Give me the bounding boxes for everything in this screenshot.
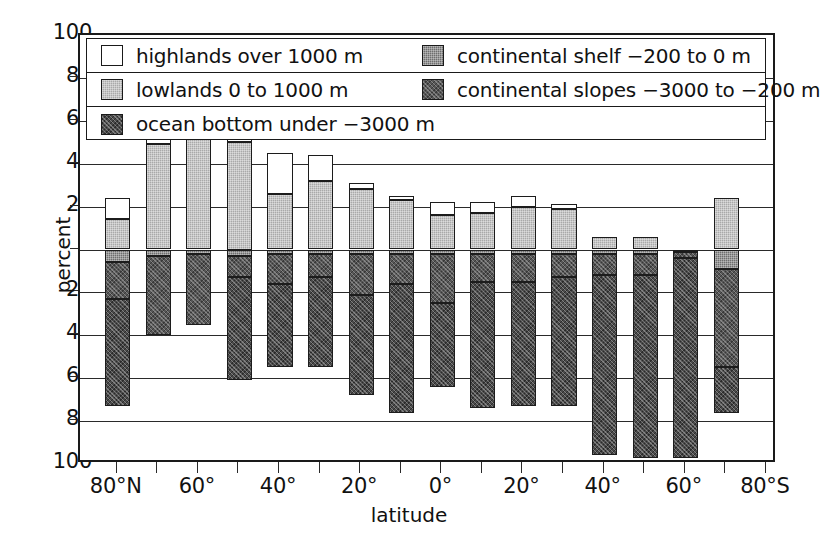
x-tick-mark bbox=[278, 462, 279, 473]
bar-segment-ocean bbox=[551, 277, 576, 406]
legend-row: highlands over 1000 mcontinental shelf −… bbox=[87, 39, 765, 73]
x-tick-label: 20° bbox=[481, 474, 561, 498]
x-tick-label: 0° bbox=[400, 474, 480, 498]
bar-segment-slopes bbox=[430, 254, 455, 303]
x-tick-mark bbox=[440, 462, 441, 473]
legend-entry-ocean: ocean bottom under −3000 m bbox=[101, 107, 435, 141]
x-tick-mark bbox=[643, 462, 644, 473]
bar-segment-slopes bbox=[592, 254, 617, 275]
legend-entry-highlands: highlands over 1000 m bbox=[101, 39, 363, 72]
gridline bbox=[80, 421, 773, 422]
legend-entry-slopes: continental slopes −3000 to −200 m bbox=[422, 73, 820, 106]
bar-segment-slopes bbox=[551, 254, 576, 278]
x-tick-mark bbox=[237, 462, 238, 473]
legend-swatch-lowlands bbox=[101, 79, 123, 100]
y-tick-mark bbox=[70, 76, 78, 77]
legend-swatch-highlands bbox=[101, 45, 123, 66]
bar-segment-slopes bbox=[349, 254, 374, 295]
gridline bbox=[80, 250, 773, 251]
bar-segment-ocean bbox=[714, 367, 739, 412]
bar-segment-slopes bbox=[146, 256, 171, 335]
legend-entry-shelf: continental shelf −200 to 0 m bbox=[422, 39, 751, 72]
bar-segment-ocean bbox=[511, 282, 536, 406]
legend-label: continental shelf −200 to 0 m bbox=[457, 46, 751, 66]
x-tick-label: 60° bbox=[157, 474, 237, 498]
gridline bbox=[80, 164, 773, 165]
x-axis-title: latitude bbox=[0, 503, 818, 527]
bar-segment-highlands bbox=[105, 198, 130, 219]
y-tick-mark bbox=[70, 376, 78, 377]
bar-segment-lowlands bbox=[389, 200, 414, 249]
legend: highlands over 1000 mcontinental shelf −… bbox=[86, 38, 766, 140]
bar-segment-lowlands bbox=[592, 237, 617, 250]
gridline bbox=[80, 207, 773, 208]
bar-segment-lowlands bbox=[186, 123, 211, 250]
bar-segment-slopes bbox=[470, 254, 495, 282]
bar-segment-lowlands bbox=[430, 215, 455, 249]
bar-segment-slopes bbox=[227, 256, 252, 277]
bar-segment-lowlands bbox=[349, 189, 374, 249]
bar-segment-slopes bbox=[186, 254, 211, 325]
y-tick-mark bbox=[70, 419, 78, 420]
bar-segment-ocean bbox=[592, 275, 617, 455]
legend-label: ocean bottom under −3000 m bbox=[136, 114, 435, 134]
x-tick-mark bbox=[521, 462, 522, 473]
x-tick-label: 80°S bbox=[725, 474, 805, 498]
bar-segment-highlands bbox=[389, 196, 414, 200]
legend-label: lowlands 0 to 1000 m bbox=[136, 80, 348, 100]
gridline bbox=[80, 335, 773, 336]
bar-segment-shelf bbox=[714, 250, 739, 269]
x-tick-mark bbox=[603, 462, 604, 473]
bar-segment-lowlands bbox=[551, 209, 576, 250]
legend-swatch-slopes bbox=[422, 79, 444, 100]
bar-segment-lowlands bbox=[633, 237, 658, 250]
bar-segment-ocean bbox=[349, 295, 374, 396]
bar-segment-highlands bbox=[511, 196, 536, 207]
bar-segment-slopes bbox=[389, 254, 414, 284]
bar-segment-lowlands bbox=[227, 142, 252, 249]
y-tick-mark bbox=[70, 333, 78, 334]
x-tick-label: 40° bbox=[563, 474, 643, 498]
bar-segment-ocean bbox=[267, 284, 292, 368]
bar-segment-lowlands bbox=[470, 213, 495, 249]
bar-segment-ocean bbox=[470, 282, 495, 409]
bar-segment-ocean bbox=[633, 275, 658, 457]
bar-segment-lowlands bbox=[267, 194, 292, 250]
x-tick-label: 40° bbox=[238, 474, 318, 498]
legend-label: continental slopes −3000 to −200 m bbox=[457, 80, 820, 100]
bar-segment-slopes bbox=[267, 254, 292, 284]
bar-segment-slopes bbox=[511, 254, 536, 282]
bar-segment-shelf bbox=[105, 250, 130, 263]
legend-entry-lowlands: lowlands 0 to 1000 m bbox=[101, 73, 348, 106]
x-tick-mark bbox=[684, 462, 685, 473]
gridline bbox=[80, 292, 773, 293]
x-tick-label: 60° bbox=[644, 474, 724, 498]
legend-row: lowlands 0 to 1000 mcontinental slopes −… bbox=[87, 73, 765, 107]
x-tick-mark bbox=[765, 462, 766, 473]
bar-segment-lowlands bbox=[511, 207, 536, 250]
bar-segment-highlands bbox=[470, 202, 495, 213]
x-tick-mark bbox=[481, 462, 482, 473]
bar-segment-ocean bbox=[227, 277, 252, 380]
bar-segment-lowlands bbox=[146, 144, 171, 249]
x-tick-mark bbox=[359, 462, 360, 473]
bar-segment-slopes bbox=[105, 262, 130, 298]
x-tick-mark bbox=[724, 462, 725, 473]
x-tick-mark bbox=[197, 462, 198, 473]
bar-segment-lowlands bbox=[714, 198, 739, 249]
y-tick-mark bbox=[70, 162, 78, 163]
bar-segment-highlands bbox=[430, 202, 455, 215]
x-tick-mark bbox=[319, 462, 320, 473]
legend-row: ocean bottom under −3000 m bbox=[87, 107, 765, 141]
x-tick-label: 80°N bbox=[76, 474, 156, 498]
gridline bbox=[80, 378, 773, 379]
bar-segment-highlands bbox=[551, 204, 576, 208]
bar-segment-slopes bbox=[714, 269, 739, 368]
bar-segment-ocean bbox=[308, 277, 333, 367]
bar-segment-ocean bbox=[430, 303, 455, 387]
legend-swatch-ocean bbox=[101, 114, 123, 135]
bar-segment-highlands bbox=[308, 155, 333, 181]
x-tick-mark bbox=[116, 462, 117, 473]
bar-segment-ocean bbox=[389, 284, 414, 413]
